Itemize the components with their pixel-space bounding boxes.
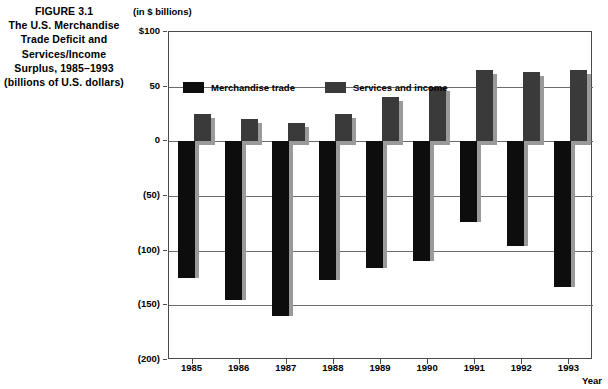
x-axis-title: Year [582,375,602,386]
x-tick-label-1989: 1989 [360,363,400,373]
plot-area: Merchandise trade Services and income [168,31,592,359]
gridline [169,305,593,306]
x-tick-label-1986: 1986 [219,363,259,373]
units-note: (in $ billions) [133,6,192,17]
figure-caption: FIGURE 3.1 The U.S. Merchandise Trade De… [0,4,128,89]
bar-merchandise-trade-1988 [319,141,336,280]
bar-merchandise-trade-1990 [413,141,430,260]
legend-swatch-services [325,82,346,93]
x-tick-label-1991: 1991 [454,363,494,373]
y-tick-mark [163,31,167,32]
bar-services-and-income-1989 [382,97,399,142]
x-tick-label-1990: 1990 [407,363,447,373]
bar-services-and-income-1993 [570,70,587,141]
bar-merchandise-trade-1985 [178,141,195,278]
y-tick-mark [163,140,167,141]
bar-services-and-income-1991 [476,70,493,141]
bar-merchandise-trade-1986 [225,141,242,300]
bar-merchandise-trade-1993 [554,141,571,286]
bar-services-and-income-1985 [194,114,211,141]
bar-merchandise-trade-1991 [460,141,477,222]
y-tick-label: (50) [126,190,160,200]
x-tick-label-1985: 1985 [172,363,212,373]
caption-line-4: Services/Income [0,47,128,61]
legend-label-services: Services and income [353,82,448,93]
y-tick-label: $100 [126,26,160,36]
bar-services-and-income-1988 [335,114,352,141]
legend-swatch-merchandise [183,82,204,93]
figure-3-1: FIGURE 3.1 The U.S. Merchandise Trade De… [0,0,608,389]
bar-merchandise-trade-1987 [272,141,289,316]
y-tick-mark [163,195,167,196]
bar-services-and-income-1987 [288,123,305,142]
caption-line-5: Surplus, 1985–1993 [0,61,128,75]
bar-services-and-income-1986 [241,119,258,141]
y-tick-label: (150) [126,299,160,309]
caption-line-6: (billions of U.S. dollars) [0,75,128,89]
x-tick-label-1988: 1988 [313,363,353,373]
legend-label-merchandise: Merchandise trade [211,82,295,93]
bar-merchandise-trade-1992 [507,141,524,246]
y-tick-mark [163,304,167,305]
caption-line-1: FIGURE 3.1 [0,4,128,18]
y-tick-mark [163,359,167,360]
y-tick-mark [163,86,167,87]
x-tick-label-1987: 1987 [266,363,306,373]
legend-item-merchandise: Merchandise trade [183,82,295,93]
y-tick-mark [163,250,167,251]
y-tick-label: (100) [126,245,160,255]
chart-legend: Merchandise trade Services and income [169,82,593,98]
caption-line-3: Trade Deficit and [0,32,128,46]
bar-merchandise-trade-1989 [366,141,383,268]
x-tick-label-1992: 1992 [501,363,541,373]
y-tick-label: 0 [126,135,160,145]
y-tick-label: (200) [126,354,160,364]
caption-line-2: The U.S. Merchandise [0,18,128,32]
legend-item-services: Services and income [325,82,448,93]
y-tick-label: 50 [126,81,160,91]
x-tick-label-1993: 1993 [548,363,588,373]
